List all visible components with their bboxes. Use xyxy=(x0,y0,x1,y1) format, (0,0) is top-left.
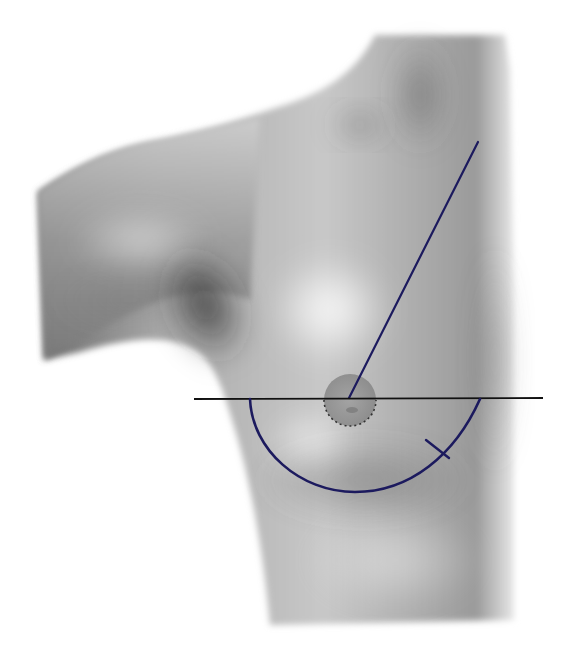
areola xyxy=(324,374,376,426)
diagram-canvas xyxy=(0,0,564,654)
nipple xyxy=(346,407,358,413)
horizontal-nipple-line xyxy=(194,398,543,399)
anatomy-illustration xyxy=(0,0,564,654)
